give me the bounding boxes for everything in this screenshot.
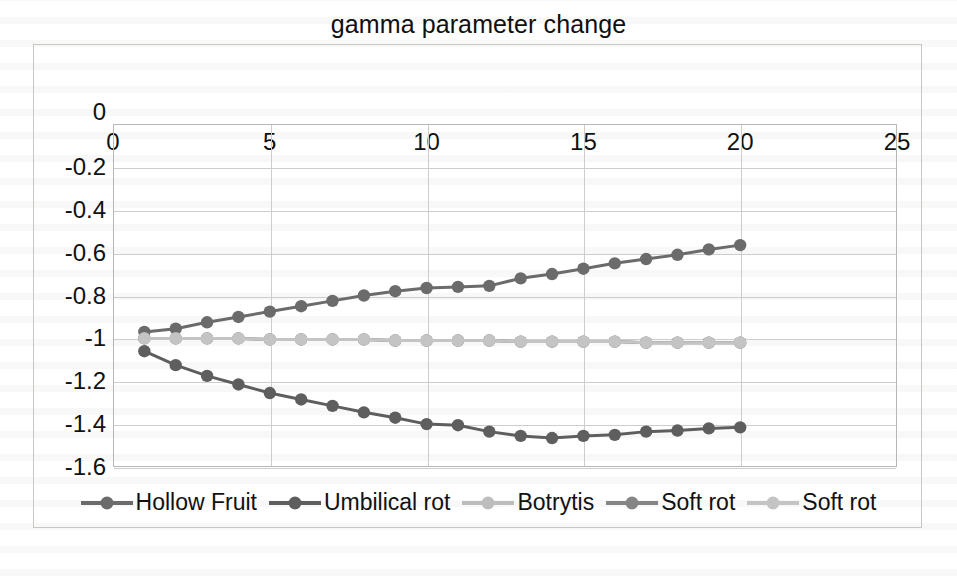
chart-legend: Hollow FruitUmbilical rotBotrytisSoft ro…	[0, 489, 957, 516]
data-point-marker	[483, 425, 495, 437]
y-axis-tick-zero: 0	[28, 98, 106, 126]
y-axis-tick-label: -1.2	[65, 367, 106, 395]
series-line	[144, 351, 740, 438]
legend-item[interactable]: Soft rot	[606, 489, 735, 516]
data-point-marker	[609, 429, 621, 441]
chart-title: gamma parameter change	[0, 10, 957, 39]
data-point-marker	[358, 333, 370, 345]
data-point-marker	[577, 335, 589, 347]
data-point-marker	[170, 359, 182, 371]
data-point-marker	[640, 425, 652, 437]
y-axis-tick-label: -0.6	[65, 239, 106, 267]
data-point-marker	[671, 249, 683, 261]
data-point-marker	[420, 334, 432, 346]
data-point-marker	[671, 336, 683, 348]
legend-label: Soft rot	[661, 489, 735, 516]
plot-wrapper	[113, 124, 897, 467]
data-point-marker	[640, 336, 652, 348]
y-axis-tick-label: -0.4	[65, 196, 106, 224]
gridline-horizontal	[114, 468, 896, 469]
legend-label: Umbilical rot	[324, 489, 451, 516]
series-5	[138, 332, 746, 349]
legend-marker-icon	[462, 494, 514, 512]
legend-marker-icon	[606, 494, 658, 512]
series-lines-layer	[113, 124, 897, 467]
data-point-marker	[201, 316, 213, 328]
y-axis-tick-label: -1.4	[65, 410, 106, 438]
data-point-marker	[514, 272, 526, 284]
data-point-marker	[389, 411, 401, 423]
legend-item[interactable]: Soft rot	[747, 489, 876, 516]
data-point-marker	[703, 422, 715, 434]
legend-item[interactable]: Botrytis	[462, 489, 594, 516]
data-point-marker	[389, 285, 401, 297]
y-axis-tick-label: -0.8	[65, 282, 106, 310]
data-point-marker	[514, 430, 526, 442]
legend-item[interactable]: Umbilical rot	[269, 489, 451, 516]
data-point-marker	[201, 370, 213, 382]
legend-marker-icon	[747, 494, 799, 512]
data-point-marker	[671, 424, 683, 436]
legend-item[interactable]: Hollow Fruit	[81, 489, 257, 516]
legend-label: Botrytis	[517, 489, 594, 516]
data-point-marker	[264, 333, 276, 345]
data-point-marker	[703, 243, 715, 255]
data-point-marker	[326, 333, 338, 345]
data-point-marker	[389, 334, 401, 346]
data-point-marker	[201, 332, 213, 344]
data-point-marker	[546, 335, 558, 347]
data-point-marker	[734, 336, 746, 348]
legend-marker-icon	[81, 494, 133, 512]
data-point-marker	[138, 345, 150, 357]
data-point-marker	[546, 268, 558, 280]
data-point-marker	[514, 335, 526, 347]
data-point-marker	[483, 280, 495, 292]
data-point-marker	[734, 421, 746, 433]
data-point-marker	[232, 311, 244, 323]
legend-label: Soft rot	[802, 489, 876, 516]
data-point-marker	[264, 387, 276, 399]
data-point-marker	[577, 263, 589, 275]
data-point-marker	[232, 378, 244, 390]
data-point-marker	[546, 432, 558, 444]
data-point-marker	[452, 419, 464, 431]
data-point-marker	[420, 282, 432, 294]
legend-dot-swatch	[626, 496, 639, 509]
data-point-marker	[703, 336, 715, 348]
y-axis-tick-label: -1	[85, 324, 106, 352]
data-point-marker	[295, 333, 307, 345]
data-point-marker	[358, 289, 370, 301]
data-point-marker	[609, 257, 621, 269]
series-2	[138, 345, 746, 444]
data-point-marker	[452, 281, 464, 293]
data-point-marker	[577, 430, 589, 442]
data-point-marker	[138, 332, 150, 344]
y-axis-tick-label: -0.2	[65, 153, 106, 181]
data-point-marker	[609, 335, 621, 347]
series-1	[138, 239, 746, 338]
data-point-marker	[358, 406, 370, 418]
data-point-marker	[420, 418, 432, 430]
data-point-marker	[326, 295, 338, 307]
data-point-marker	[483, 334, 495, 346]
data-point-marker	[232, 332, 244, 344]
legend-dot-swatch	[100, 496, 113, 509]
data-point-marker	[640, 253, 652, 265]
y-axis-tick-label: -1.6	[65, 453, 106, 481]
data-point-marker	[734, 239, 746, 251]
legend-dot-swatch	[288, 496, 301, 509]
legend-dot-swatch	[482, 496, 495, 509]
data-point-marker	[452, 334, 464, 346]
data-point-marker	[326, 400, 338, 412]
legend-dot-swatch	[767, 496, 780, 509]
data-point-marker	[295, 300, 307, 312]
y-axis-tick-labels: -0.2-0.4-0.6-0.8-1-1.2-1.4-1.6	[28, 124, 106, 467]
legend-label: Hollow Fruit	[136, 489, 257, 516]
legend-marker-icon	[269, 494, 321, 512]
data-point-marker	[264, 305, 276, 317]
data-point-marker	[295, 393, 307, 405]
data-point-marker	[170, 332, 182, 344]
